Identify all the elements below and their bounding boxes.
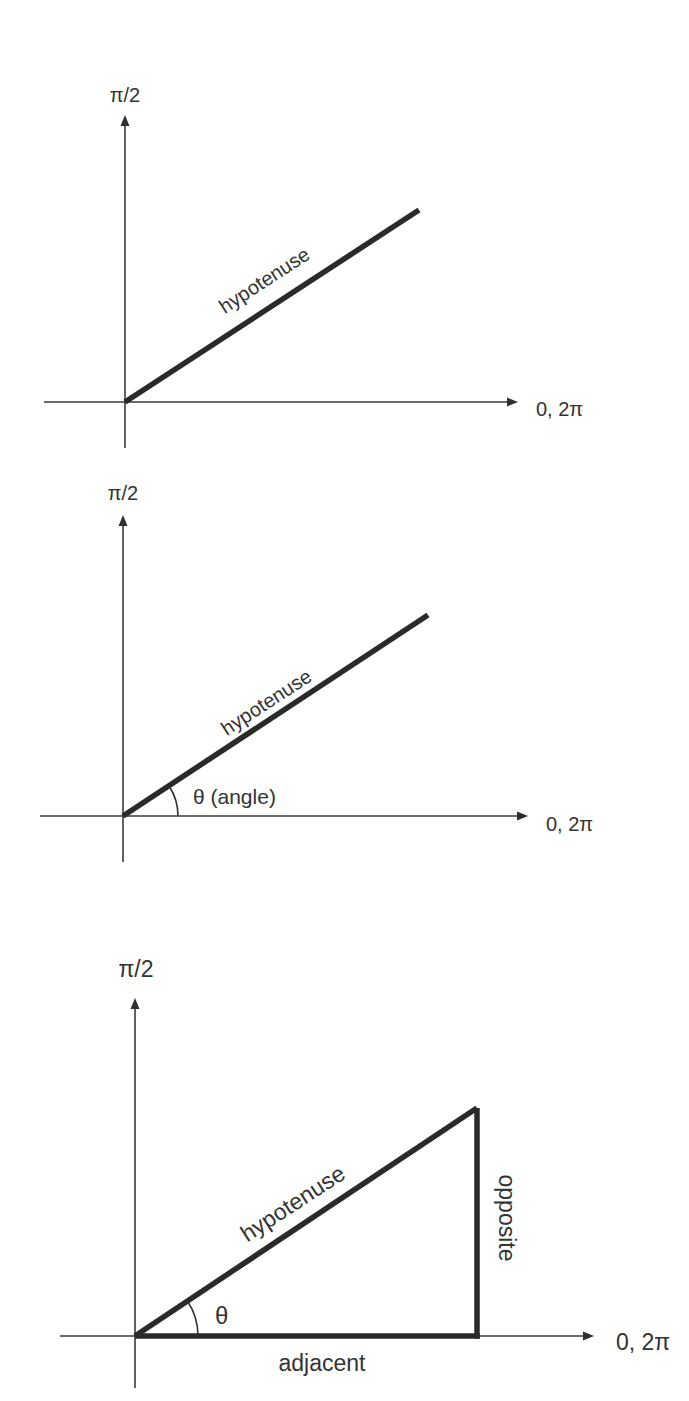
diagram-2: π/2 0, 2π hypotenuse θ (angle): [40, 482, 593, 862]
angle-arc: [169, 786, 178, 816]
x-axis-label: 0, 2π: [546, 813, 593, 835]
hypotenuse-line: [135, 1108, 477, 1336]
x-axis-label: 0, 2π: [616, 1329, 670, 1355]
x-axis-label: 0, 2π: [536, 398, 583, 420]
diagram-1: π/2 0, 2π hypotenuse: [44, 84, 583, 448]
y-axis-label: π/2: [118, 956, 153, 982]
angle-label: θ (angle): [193, 785, 276, 808]
y-axis-label: π/2: [110, 84, 140, 106]
angle-label: θ: [215, 1302, 228, 1329]
y-axis-arrow-icon: [119, 515, 128, 526]
trig-diagram-canvas: π/2 0, 2π hypotenuse π/2 0, 2π hypotenus…: [0, 0, 689, 1401]
opposite-label: opposite: [494, 1175, 520, 1262]
diagram-3: π/2 0, 2π hypotenuse θ opposite adjacent: [60, 956, 670, 1388]
hypotenuse-label: hypotenuse: [215, 243, 314, 318]
x-axis-arrow-icon: [583, 1332, 594, 1341]
y-axis-arrow-icon: [121, 115, 130, 126]
angle-arc: [187, 1301, 198, 1336]
x-axis-arrow-icon: [517, 812, 528, 821]
hypotenuse-line: [125, 210, 419, 402]
y-axis-label: π/2: [108, 482, 138, 504]
adjacent-label: adjacent: [279, 1350, 367, 1376]
x-axis-arrow-icon: [507, 398, 518, 407]
y-axis-arrow-icon: [131, 998, 140, 1009]
